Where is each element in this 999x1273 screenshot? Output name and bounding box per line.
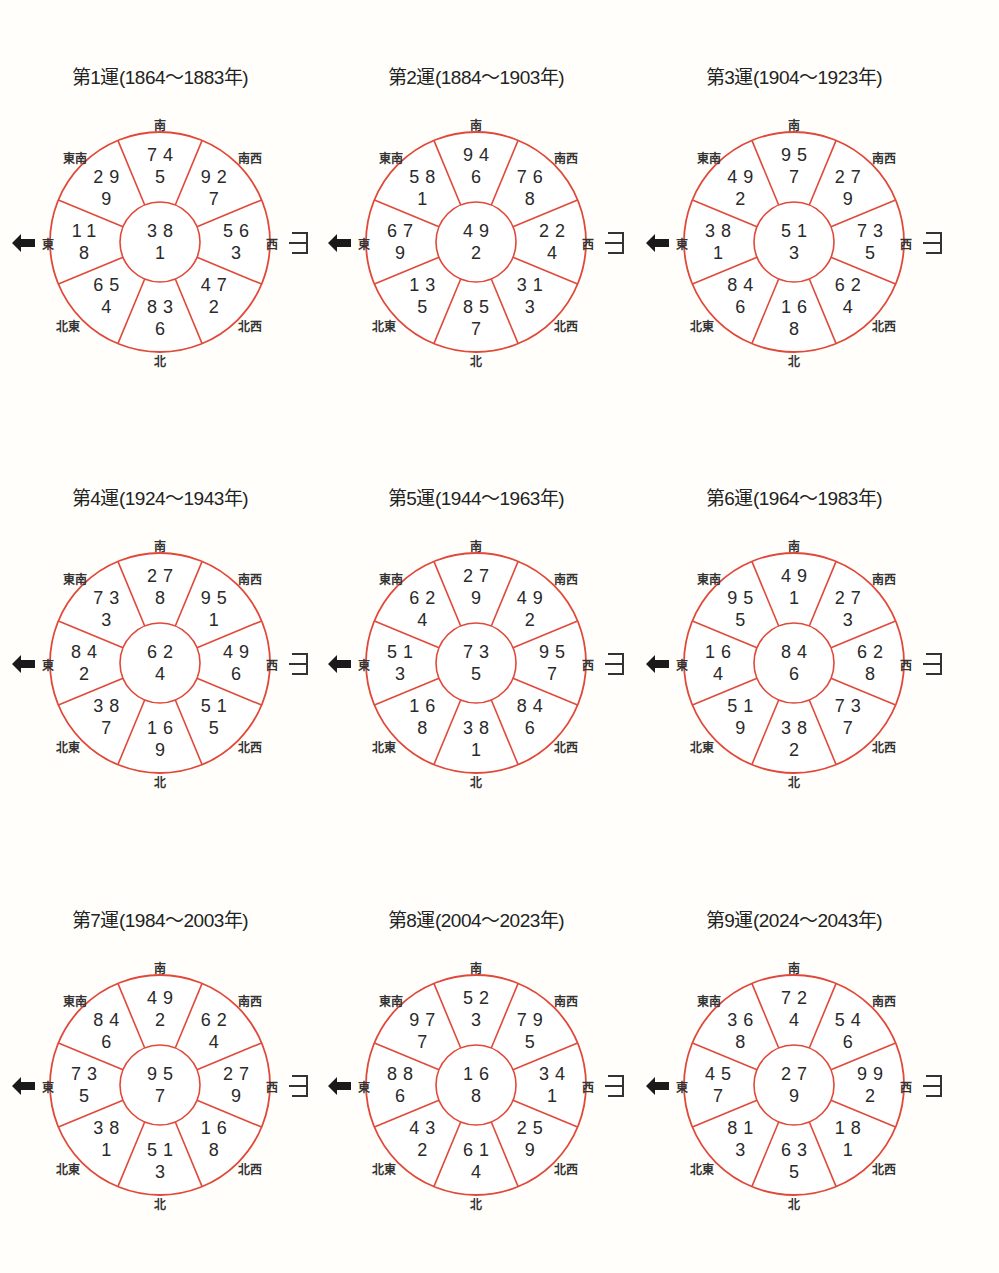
star-cell-center: 735 [446,641,506,685]
mountain-star: 1 [463,1064,479,1084]
water-star: 5 [109,275,125,295]
mountain-star: 7 [517,1010,533,1030]
star-cell-center: 846 [764,641,824,685]
mountain-water-stars: 36 [710,1009,770,1031]
mountain-water-stars: 95 [710,587,770,609]
water-star: 4 [109,1010,125,1030]
base-star: 7 [446,318,506,340]
direction-label-se: 東南 [63,149,87,166]
mountain-water-stars: 38 [688,220,748,242]
east-arrow-icon [12,1077,36,1095]
star-cell-e: 164 [688,641,748,685]
direction-label-nw: 北西 [554,1160,578,1177]
star-cell-s: 279 [446,565,506,609]
mountain-star: 8 [71,642,87,662]
star-cell-nw: 624 [818,274,878,318]
base-star: 9 [500,1139,560,1161]
east-arrow-icon [328,1077,352,1095]
base-star: 2 [130,1009,190,1031]
mountain-star: 2 [539,221,555,241]
star-cell-w: 735 [840,220,900,264]
mountain-star: 9 [201,167,217,187]
water-star: 3 [425,275,441,295]
mountain-water-stars: 72 [764,987,824,1009]
star-cell-n: 857 [446,296,506,340]
water-star: 8 [109,696,125,716]
water-star: 9 [109,167,125,187]
mountain-star: 7 [147,145,163,165]
water-star: 6 [797,297,813,317]
mountain-water-stars: 62 [840,641,900,663]
direction-label-nw: 北西 [238,1160,262,1177]
flying-star-wheel: 南南西西北西北北東東東南168523795341259614432886977 [316,955,636,1235]
star-cell-e: 842 [54,641,114,685]
mountain-water-stars: 73 [76,587,136,609]
base-star: 7 [818,717,878,739]
mountain-star: 6 [93,275,109,295]
mountain-water-stars: 16 [184,1117,244,1139]
direction-label-n: 北 [788,352,800,369]
base-star: 9 [446,587,506,609]
star-cell-e: 679 [370,220,430,264]
period-chart-6: 第6運(1964〜1983年) 南南西西北西北北東東東南846491273628… [634,483,954,883]
mountain-star: 5 [835,1010,851,1030]
mountain-star: 9 [201,588,217,608]
base-star: 3 [370,663,430,685]
water-star: 7 [163,566,179,586]
base-star: 7 [764,166,824,188]
direction-label-w: 西 [582,656,594,673]
direction-label-n: 北 [470,352,482,369]
base-star: 4 [446,1161,506,1183]
mountain-water-stars: 34 [522,1063,582,1085]
mountain-water-stars: 95 [764,144,824,166]
direction-label-w: 西 [900,235,912,252]
mountain-star: 4 [705,1064,721,1084]
chart-title: 第3運(1904〜1923年) [634,62,954,89]
star-cell-n: 381 [446,717,506,761]
direction-label-sw: 南西 [554,149,578,166]
mountain-water-stars: 45 [688,1063,748,1085]
base-star: 9 [370,242,430,264]
mountain-water-stars: 95 [130,1063,190,1085]
mountain-star: 2 [517,1118,533,1138]
mountain-star: 8 [727,1118,743,1138]
mountain-water-stars: 99 [840,1063,900,1085]
mountain-water-stars: 56 [206,220,266,242]
base-star: 8 [130,587,190,609]
mountain-water-stars: 43 [392,1117,452,1139]
water-star: 9 [743,167,759,187]
mountain-water-stars: 73 [818,695,878,717]
mountain-star: 4 [727,167,743,187]
direction-label-nw: 北西 [554,738,578,755]
mountain-water-stars: 38 [130,220,190,242]
mountain-water-stars: 49 [446,220,506,242]
entrance-door-icon [605,1073,627,1099]
mountain-star: 1 [781,297,797,317]
base-star: 3 [818,609,878,631]
base-star: 4 [392,609,452,631]
water-star: 3 [851,696,867,716]
east-arrow-icon [646,1077,670,1095]
mountain-star: 3 [517,275,533,295]
direction-label-e: 東 [42,235,54,252]
star-cell-e: 886 [370,1063,430,1107]
base-star: 9 [710,717,770,739]
base-star: 8 [764,318,824,340]
mountain-water-stars: 27 [818,166,878,188]
water-star: 2 [873,642,889,662]
mountain-water-stars: 27 [446,565,506,587]
water-star: 9 [533,588,549,608]
base-star: 5 [446,663,506,685]
star-cell-sw: 951 [184,587,244,631]
base-star: 3 [76,609,136,631]
direction-label-ne: 北東 [56,1160,80,1177]
base-star: 1 [764,587,824,609]
mountain-water-stars: 22 [522,220,582,242]
star-cell-se: 492 [710,166,770,210]
direction-label-nw: 北西 [554,317,578,334]
star-cell-sw: 624 [184,1009,244,1053]
mountain-star: 1 [705,642,721,662]
period-chart-3: 第3運(1904〜1923年) 南南西西北西北北東東東南513957279735… [634,62,954,462]
water-star: 1 [797,221,813,241]
water-star: 6 [479,1064,495,1084]
